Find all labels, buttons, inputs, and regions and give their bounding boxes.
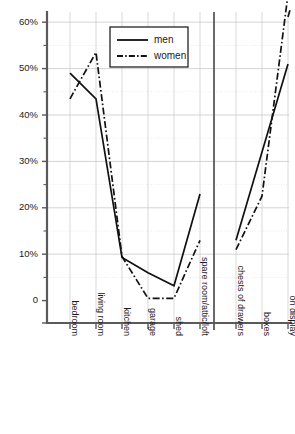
y-tick-label-0: 0: [33, 294, 38, 305]
series-women-overflow-segment: [288, 8, 291, 17]
y-tick-label-20: 20%: [19, 201, 39, 212]
x-tick-label-garage: garage: [148, 308, 158, 336]
x-tick-label-living-room: living room: [96, 292, 106, 336]
legend-label-women: women: [153, 50, 186, 61]
x-tick-label-chests-of-drawers: chests of drawers: [236, 265, 246, 336]
y-axis-tick-labels: 60% 50% 40% 30% 20% 10% 0: [19, 16, 39, 305]
line-chart: 60% 50% 40% 30% 20% 10% 0: [0, 0, 295, 434]
chart-container: 60% 50% 40% 30% 20% 10% 0: [0, 0, 295, 434]
x-tick-label-bedroom: bedroom: [70, 300, 80, 336]
legend-label-men: men: [154, 34, 173, 45]
x-tick-label-shed: shed: [174, 316, 184, 336]
y-tick-label-10: 10%: [19, 248, 39, 259]
y-tick-label-60: 60%: [19, 16, 39, 27]
x-tick-label-kitchen: kitchen: [122, 307, 132, 336]
x-tick-label-on-display: on display: [288, 295, 295, 336]
x-tick-label-spare-room: spare room/attic/loft: [200, 257, 210, 337]
chart-legend: men women: [110, 27, 188, 67]
y-tick-label-30: 30%: [19, 155, 39, 166]
x-axis-tick-labels: bedroom living room kitchen garage shed …: [70, 257, 295, 337]
series-men: [70, 64, 288, 286]
y-tick-label-40: 40%: [19, 109, 39, 120]
x-tick-label-boxes: boxes: [262, 312, 272, 337]
y-tick-label-50: 50%: [19, 62, 39, 73]
